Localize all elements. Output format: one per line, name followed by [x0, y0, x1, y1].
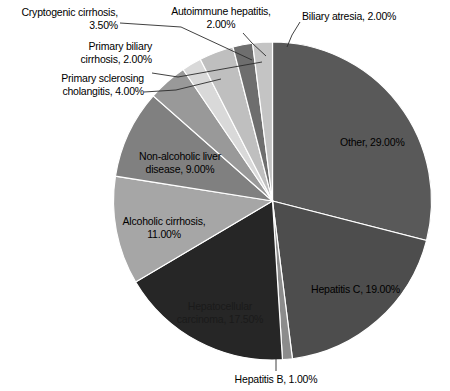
slice-label-biliary-atresia: Biliary atresia, 2.00%: [302, 10, 442, 23]
slice-label-primary-sclerosing-cholangitis: Primary sclerosing cholangitis, 4.00%: [22, 72, 144, 98]
slice-label-other: Other, 29.00%: [340, 136, 440, 149]
pie-chart: Cryptogenic cirrhosis, 3.50% Primary bil…: [0, 0, 450, 391]
slice-label-cryptogenic-cirrhosis: Cryptogenic cirrhosis, 3.50%: [6, 6, 118, 32]
slice-label-non-alcoholic-liver-disease: Non-alcoholic liver disease, 9.00%: [118, 150, 242, 176]
slice-label-alcoholic-cirrhosis: Alcoholic cirrhosis, 11.00%: [104, 215, 224, 241]
slice-label-hepatocellular-carcinoma: Hepatocellular carcinoma, 17.50%: [162, 300, 278, 326]
slice-label-hepatitis-c: Hepatitis C, 19.00%: [311, 283, 431, 296]
slice-label-autoimmune-hepatitis: Autoimmune hepatitis, 2.00%: [160, 5, 282, 31]
slice-label-hepatitis-b: Hepatitis B, 1.00%: [214, 373, 338, 386]
slice-label-primary-biliary-cirrhosis: Primary biliary cirrhosis, 2.00%: [46, 40, 152, 66]
